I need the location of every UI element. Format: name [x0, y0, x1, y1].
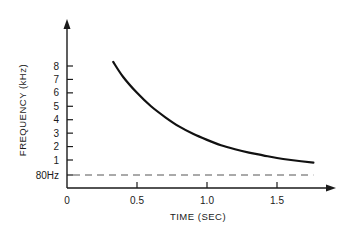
y-axis-arrow-icon [64, 19, 71, 29]
y-tick-label: 4 [53, 114, 59, 125]
frequency-time-chart: 80Hz12345678 00.51.01.5 FREQUENCY (kHz) … [0, 0, 358, 236]
y-tick-label: 6 [53, 87, 59, 98]
y-tick-label: 1 [53, 155, 59, 166]
x-axis-arrow-icon [326, 185, 336, 192]
x-axis-label: TIME (SEC) [170, 211, 226, 222]
y-tick-label: 8 [53, 61, 59, 72]
y-tick-label: 7 [53, 74, 59, 85]
x-tick-label: 0 [64, 195, 70, 206]
frequency-curve [113, 62, 313, 163]
axes [64, 19, 337, 192]
y-tick-label: 3 [53, 128, 59, 139]
x-tick-label: 0.5 [130, 195, 144, 206]
data-series [73, 62, 313, 175]
y-tick-label: 5 [53, 101, 59, 112]
y-tick-label: 2 [53, 141, 59, 152]
x-axis-ticks: 00.51.01.5 [64, 182, 284, 206]
x-tick-label: 1.5 [270, 195, 284, 206]
x-tick-label: 1.0 [200, 195, 214, 206]
y-axis-label: FREQUENCY (kHz) [17, 64, 28, 156]
y-tick-label: 80Hz [36, 170, 59, 181]
